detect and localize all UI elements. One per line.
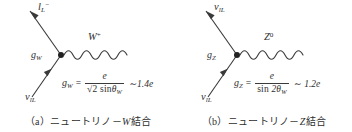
- coupling-label-a: gW: [31, 50, 42, 62]
- panel-neutrino-w-coupling: lL− νlL gW W+ gW = e √2 sinθW ∼1.4e （a）: [0, 0, 176, 132]
- formula-fraction-a: e √2 sinθW: [85, 72, 124, 95]
- interaction-vertex-dot: [58, 52, 64, 58]
- caption-tag-b: （b）: [202, 116, 228, 127]
- caption-pre-b: ニュートリノ－: [228, 116, 300, 127]
- boson-label-a: W+: [88, 32, 101, 43]
- caption-boson-a: W: [122, 116, 131, 127]
- w-boson-wavy-line: [64, 51, 127, 60]
- incoming-particle-label-b: νlL: [201, 92, 212, 104]
- formula-numerator-b: e: [267, 72, 277, 83]
- coupling-formula-a: gW = e √2 sinθW ∼1.4e: [62, 72, 153, 95]
- z-boson-wavy-line: [240, 51, 303, 60]
- formula-fraction-b: e sin 2θW: [255, 72, 289, 95]
- formula-denominator-b: sin 2θW: [255, 84, 289, 95]
- caption-a: （a）ニュートリノ－W結合: [0, 113, 176, 128]
- outgoing-particle-label-b: νlL: [214, 2, 225, 14]
- formula-denominator-a: √2 sinθW: [85, 84, 124, 95]
- caption-post-a: 結合: [131, 116, 152, 127]
- formula-equals-b: =: [246, 78, 251, 88]
- interaction-vertex-dot: [234, 52, 240, 58]
- incoming-particle-label-a: νlL: [25, 92, 36, 104]
- incoming-neutrino-arrowhead: [220, 69, 228, 76]
- caption-b: （b）ニュートリノ－Z結合: [176, 113, 352, 128]
- formula-equals-a: =: [76, 78, 81, 88]
- boson-label-b: Z0: [264, 32, 273, 43]
- coupling-label-b: gZ: [207, 50, 216, 62]
- coupling-formula-b: gZ = e sin 2θW ∼ 1.2e: [234, 72, 320, 95]
- incoming-neutrino-arrowhead: [44, 69, 52, 76]
- panel-neutrino-z-coupling: νlL νlL gZ Z0 gZ = e sin 2θW ∼ 1.2e （b）: [176, 0, 352, 132]
- formula-approximation-b: ∼ 1.2e: [294, 78, 320, 89]
- feynman-diagram-figure: lL− νlL gW W+ gW = e √2 sinθW ∼1.4e （a）: [0, 0, 352, 132]
- caption-post-b: 結合: [306, 116, 327, 127]
- outgoing-particle-label-a: lL−: [38, 2, 49, 14]
- formula-numerator-a: e: [99, 72, 109, 83]
- caption-tag-a: （a）: [25, 116, 50, 127]
- formula-approximation-a: ∼1.4e: [129, 78, 153, 89]
- caption-pre-a: ニュートリノ－: [50, 116, 122, 127]
